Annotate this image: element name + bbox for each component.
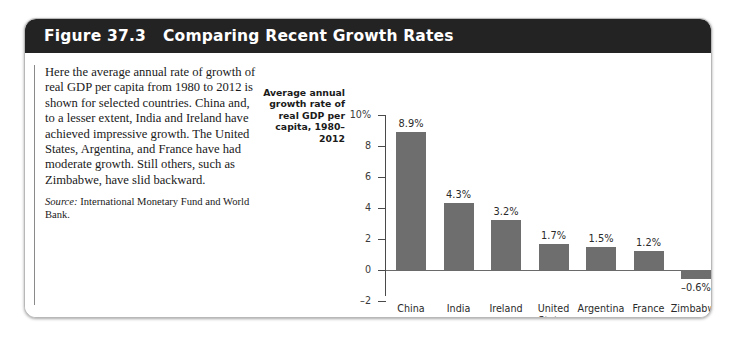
y-axis-tick-label: 6	[337, 171, 371, 182]
bar-chart-plot: 10%86420–28.9%China4.3%India3.2%Ireland1…	[261, 53, 711, 317]
bar	[634, 251, 664, 270]
caption-text: Here the average annual rate of growth o…	[45, 65, 256, 188]
y-axis-tick-label: 0	[337, 264, 371, 275]
y-axis-tick-label: 4	[337, 202, 371, 213]
bar	[681, 270, 711, 279]
y-axis-tick-label: 10%	[337, 109, 371, 120]
bar	[396, 132, 426, 270]
y-axis-tick	[378, 115, 386, 116]
y-axis-tick	[378, 270, 386, 271]
caption-column: Here the average annual rate of growth o…	[34, 65, 256, 305]
bar	[491, 220, 521, 270]
chart-area: Average annual growth rate of real GDP p…	[261, 53, 711, 317]
bar-value-label: 4.3%	[430, 189, 488, 200]
bar	[586, 247, 616, 270]
bar-value-label: 1.2%	[620, 237, 678, 248]
source-label: Source:	[45, 196, 78, 207]
y-axis-tick	[378, 146, 386, 147]
bar-value-label: 3.2%	[477, 206, 535, 217]
y-axis-tick	[378, 208, 386, 209]
bar-value-label: –0.6%	[667, 282, 712, 293]
source-line: Source: International Monetary Fund and …	[45, 195, 256, 221]
zero-baseline	[385, 270, 712, 271]
bar-value-label: 8.9%	[382, 118, 440, 129]
figure-title: Comparing Recent Growth Rates	[163, 27, 454, 45]
figure-number: Figure 37.3	[44, 27, 146, 45]
y-axis-tick	[378, 239, 386, 240]
y-axis-tick	[378, 177, 386, 178]
y-axis-tick	[378, 301, 386, 302]
figure-body: Here the average annual rate of growth o…	[25, 53, 711, 317]
y-axis-line	[385, 115, 386, 296]
y-axis-tick-label: –2	[337, 295, 371, 306]
y-axis-tick-label: 8	[337, 140, 371, 151]
bar	[444, 203, 474, 270]
figure-card: Figure 37.3 Comparing Recent Growth Rate…	[24, 18, 712, 318]
figure-header: Figure 37.3 Comparing Recent Growth Rate…	[25, 19, 711, 53]
bar	[539, 244, 569, 270]
x-axis-category-label: Zimbabwe	[664, 303, 712, 315]
y-axis-tick-label: 2	[337, 233, 371, 244]
